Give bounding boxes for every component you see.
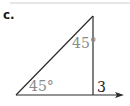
side-label-vertical: 3 [97, 79, 106, 95]
angle-label-top: 45° [72, 35, 97, 51]
hypotenuse-line [16, 16, 93, 95]
angle-label-bottom-left: 45° [29, 78, 54, 94]
triangle-figure: 45° 45° 3 [0, 0, 130, 106]
